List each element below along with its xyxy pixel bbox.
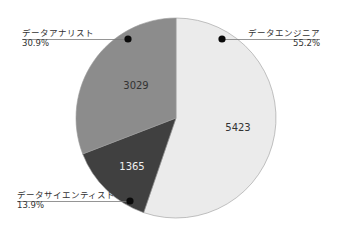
leader-dot-analyst: [124, 35, 131, 42]
leader-dot-scientist: [126, 197, 133, 204]
label-scientist-pct: 13.9%: [17, 200, 115, 210]
label-analyst: データアナリスト 30.9%: [22, 28, 94, 48]
pie-slices: [76, 18, 276, 218]
label-scientist: データサイエンティスト 13.9%: [17, 190, 115, 210]
label-analyst-name: データアナリスト: [22, 28, 94, 38]
value-engineer: 5423: [225, 122, 250, 133]
label-engineer-name: データエンジニア: [248, 28, 320, 38]
label-engineer: データエンジニア 55.2%: [248, 28, 320, 48]
label-engineer-pct: 55.2%: [248, 38, 320, 48]
label-scientist-name: データサイエンティスト: [17, 190, 115, 200]
label-analyst-pct: 30.9%: [22, 38, 94, 48]
value-analyst: 3029: [123, 80, 148, 91]
leader-dot-engineer: [218, 35, 225, 42]
value-scientist: 1365: [119, 161, 144, 172]
